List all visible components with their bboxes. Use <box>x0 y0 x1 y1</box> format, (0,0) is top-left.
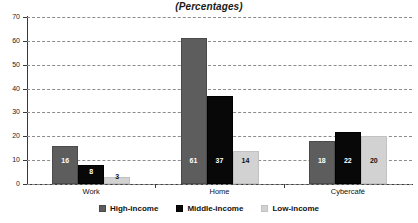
bar-value-label: 8 <box>79 168 103 176</box>
legend-label: High-income <box>110 204 158 213</box>
bar-value-label: 22 <box>336 157 360 165</box>
bar-value-label: 3 <box>105 173 129 181</box>
bar: 18 <box>309 141 335 184</box>
legend-item[interactable]: High-income <box>99 204 158 213</box>
category-label: Home <box>155 187 283 196</box>
legend-label: Low-income <box>272 204 319 213</box>
legend-swatch-icon <box>99 205 106 212</box>
bar: 8 <box>78 165 104 184</box>
bar: 3 <box>104 177 130 184</box>
legend-item[interactable]: Middle-income <box>176 204 243 213</box>
bar-value-label: 18 <box>310 157 334 165</box>
y-tick-label: 60 <box>0 37 20 44</box>
gridline <box>27 184 412 185</box>
y-tick-label: 20 <box>0 132 20 139</box>
gridline <box>27 65 412 66</box>
legend-label: Middle-income <box>187 204 243 213</box>
gridline <box>27 41 412 42</box>
chart-title: (Percentages) <box>0 1 418 12</box>
y-tick-label: 10 <box>0 156 20 163</box>
bar-chart: (Percentages) 010203040506070 1683613714… <box>0 0 418 223</box>
bar: 16 <box>52 146 78 184</box>
bar-value-label: 16 <box>53 157 77 165</box>
y-tick-label: 50 <box>0 61 20 68</box>
bar: 20 <box>361 136 387 184</box>
legend-swatch-icon <box>176 205 183 212</box>
gridline <box>27 17 412 18</box>
legend-swatch-icon <box>261 205 268 212</box>
category-label: Cybercafé <box>284 187 412 196</box>
y-tick-label: 70 <box>0 13 20 20</box>
category-label: Work <box>27 187 155 196</box>
y-tick-label: 40 <box>0 85 20 92</box>
bar: 14 <box>233 151 259 184</box>
legend-item[interactable]: Low-income <box>261 204 319 213</box>
bar-value-label: 14 <box>234 157 258 165</box>
y-tick-label: 0 <box>0 180 20 187</box>
gridline <box>27 89 412 90</box>
bar-value-label: 20 <box>362 157 386 165</box>
bar-value-label: 37 <box>208 157 232 165</box>
bar: 37 <box>207 96 233 184</box>
chart-legend: High-incomeMiddle-incomeLow-income <box>0 204 418 213</box>
bar-value-label: 61 <box>182 157 206 165</box>
plot-area: 1683613714182220 <box>27 17 412 184</box>
bar: 61 <box>181 38 207 184</box>
y-tick-label: 30 <box>0 108 20 115</box>
bar: 22 <box>335 132 361 184</box>
